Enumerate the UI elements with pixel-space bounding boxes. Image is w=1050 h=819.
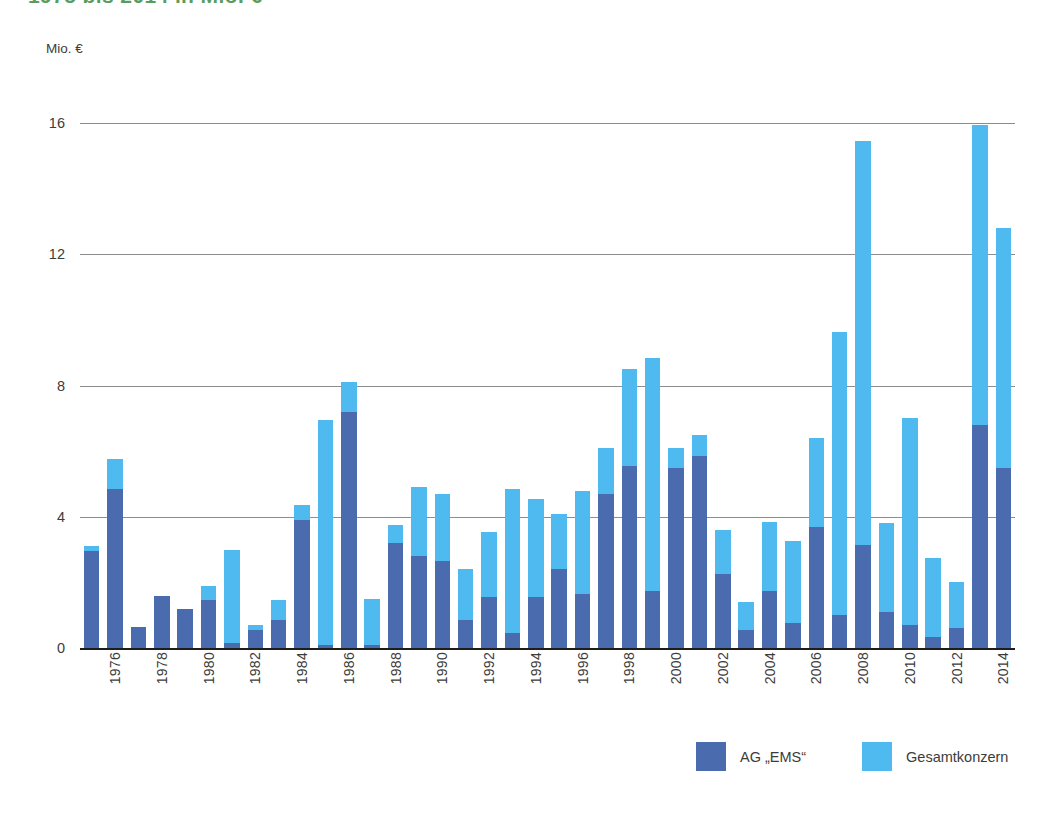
bar-segment-gesamtkonzern-1989 xyxy=(411,487,426,556)
bar-segment-gesamtkonzern-1987 xyxy=(364,599,379,645)
bar-segment-gesamtkonzern-1992 xyxy=(481,532,496,598)
bar-1983[interactable] xyxy=(271,600,286,648)
bar-segment-gesamtkonzern-1996 xyxy=(575,491,590,594)
bar-segment-ag-ems-2003 xyxy=(738,630,753,648)
bar-segment-ag-ems-1999 xyxy=(645,591,660,648)
bar-2005[interactable] xyxy=(785,541,800,648)
bar-2013[interactable] xyxy=(972,125,987,648)
bar-1996[interactable] xyxy=(575,491,590,648)
bar-segment-gesamtkonzern-2013 xyxy=(972,125,987,425)
bar-1990[interactable] xyxy=(435,494,450,648)
bar-1995[interactable] xyxy=(551,514,566,648)
bar-segment-ag-ems-1992 xyxy=(481,597,496,648)
bar-segment-ag-ems-1990 xyxy=(435,561,450,648)
bar-segment-gesamtkonzern-2003 xyxy=(738,602,753,630)
bar-2002[interactable] xyxy=(715,530,730,648)
bar-2009[interactable] xyxy=(879,523,894,648)
bar-2007[interactable] xyxy=(832,332,847,648)
bar-2001[interactable] xyxy=(692,435,707,648)
x-axis-tick-1986: 1986 xyxy=(341,652,357,684)
bar-segment-gesamtkonzern-2006 xyxy=(809,438,824,527)
bar-2000[interactable] xyxy=(668,448,683,648)
bar-1975[interactable] xyxy=(84,546,99,648)
bar-segment-ag-ems-1984 xyxy=(294,520,309,648)
bar-1984[interactable] xyxy=(294,505,309,648)
bar-2004[interactable] xyxy=(762,522,777,648)
bar-segment-ag-ems-1997 xyxy=(598,494,613,648)
bar-segment-ag-ems-1995 xyxy=(551,569,566,648)
x-axis-tick-2014: 2014 xyxy=(995,652,1011,684)
bar-segment-gesamtkonzern-2005 xyxy=(785,541,800,623)
bar-1979[interactable] xyxy=(177,609,192,648)
bar-segment-gesamtkonzern-1995 xyxy=(551,514,566,570)
bar-segment-ag-ems-2006 xyxy=(809,527,824,648)
bar-1986[interactable] xyxy=(341,382,356,648)
x-axis-tick-2002: 2002 xyxy=(715,652,731,684)
bar-1994[interactable] xyxy=(528,499,543,648)
bar-segment-gesamtkonzern-2012 xyxy=(949,582,964,628)
bar-2012[interactable] xyxy=(949,582,964,648)
bar-1987[interactable] xyxy=(364,599,379,648)
bar-2011[interactable] xyxy=(925,558,940,648)
bar-1982[interactable] xyxy=(248,625,263,648)
y-axis-tick-12: 12 xyxy=(49,246,65,262)
bar-segment-gesamtkonzern-2014 xyxy=(996,228,1011,467)
y-axis-tick-0: 0 xyxy=(57,640,65,656)
bar-1998[interactable] xyxy=(622,369,637,648)
bar-segment-gesamtkonzern-2001 xyxy=(692,435,707,456)
bar-1993[interactable] xyxy=(505,489,520,648)
x-axis-tick-1976: 1976 xyxy=(107,652,123,684)
bar-segment-ag-ems-2009 xyxy=(879,612,894,648)
legend-item-gesamtkonzern[interactable]: Gesamtkonzern xyxy=(862,742,1008,771)
bar-segment-gesamtkonzern-1998 xyxy=(622,369,637,466)
bar-segment-ag-ems-2007 xyxy=(832,615,847,648)
x-axis-tick-1996: 1996 xyxy=(575,652,591,684)
bar-segment-ag-ems-1985 xyxy=(318,645,333,648)
bar-2008[interactable] xyxy=(855,141,870,648)
bar-segment-ag-ems-2008 xyxy=(855,545,870,648)
bar-segment-ag-ems-1986 xyxy=(341,412,356,648)
bar-segment-gesamtkonzern-2010 xyxy=(902,418,917,625)
bar-segment-ag-ems-1994 xyxy=(528,597,543,648)
bar-2006[interactable] xyxy=(809,438,824,648)
bar-1989[interactable] xyxy=(411,487,426,648)
bar-segment-gesamtkonzern-1997 xyxy=(598,448,613,494)
bar-segment-gesamtkonzern-1991 xyxy=(458,569,473,620)
bar-1992[interactable] xyxy=(481,532,496,648)
y-axis-unit-label: Mio. € xyxy=(46,41,83,56)
bar-segment-ag-ems-1991 xyxy=(458,620,473,648)
bars-group xyxy=(80,97,1015,648)
bar-segment-ag-ems-2001 xyxy=(692,456,707,648)
bar-segment-ag-ems-1989 xyxy=(411,556,426,648)
legend-item-ag-ems[interactable]: AG „EMS“ xyxy=(696,742,806,771)
bar-2014[interactable] xyxy=(996,228,1011,648)
legend-swatch-gesamtkonzern xyxy=(862,742,892,771)
bar-1981[interactable] xyxy=(224,550,239,648)
bar-1985[interactable] xyxy=(318,420,333,648)
bar-1988[interactable] xyxy=(388,525,403,648)
bar-segment-ag-ems-1976 xyxy=(107,489,122,648)
bar-2010[interactable] xyxy=(902,418,917,648)
x-axis-tick-2010: 2010 xyxy=(902,652,918,684)
bar-segment-gesamtkonzern-2000 xyxy=(668,448,683,468)
bar-1997[interactable] xyxy=(598,448,613,648)
x-axis-tick-labels: 1976197819801982198419861988199019921994… xyxy=(80,652,1015,722)
chart-plot-area: 0481216 xyxy=(80,97,1015,648)
bar-segment-gesamtkonzern-1976 xyxy=(107,459,122,489)
bar-1977[interactable] xyxy=(131,627,146,648)
bar-segment-gesamtkonzern-1999 xyxy=(645,358,660,591)
bar-segment-gesamtkonzern-1983 xyxy=(271,600,286,620)
bar-segment-ag-ems-2000 xyxy=(668,468,683,648)
bar-1976[interactable] xyxy=(107,459,122,648)
bar-1980[interactable] xyxy=(201,586,216,648)
y-axis-tick-16: 16 xyxy=(49,115,65,131)
bar-1999[interactable] xyxy=(645,358,660,648)
bar-2003[interactable] xyxy=(738,602,753,648)
bar-1991[interactable] xyxy=(458,569,473,648)
bar-segment-ag-ems-2005 xyxy=(785,623,800,648)
bar-1978[interactable] xyxy=(154,596,169,648)
bar-segment-ag-ems-1996 xyxy=(575,594,590,648)
bar-segment-ag-ems-1983 xyxy=(271,620,286,648)
y-axis-tick-8: 8 xyxy=(57,378,65,394)
bar-segment-gesamtkonzern-2002 xyxy=(715,530,730,574)
